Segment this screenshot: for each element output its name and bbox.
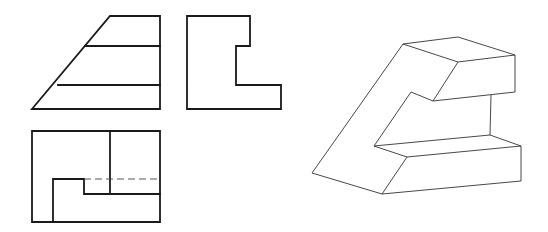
front-view-outline [32, 16, 160, 109]
isometric-edge [433, 55, 515, 101]
isometric-edge [403, 37, 515, 62]
technical-drawing [0, 0, 548, 232]
side-view-outline [187, 16, 281, 109]
side-view [187, 16, 281, 109]
top-view-line [53, 179, 160, 222]
top-view [32, 131, 160, 222]
isometric-edge [490, 95, 491, 135]
isometric-edge [312, 44, 521, 194]
isometric-edge [374, 92, 521, 157]
isometric-view [312, 37, 521, 194]
front-view [32, 16, 160, 109]
isometric-edge [382, 157, 407, 194]
top-view-outline [32, 131, 160, 222]
